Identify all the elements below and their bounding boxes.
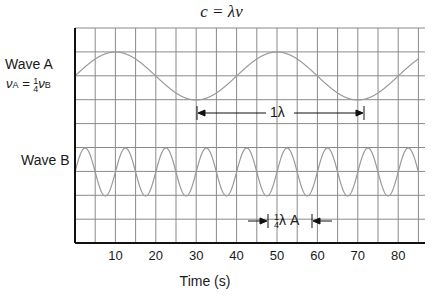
x-tick-label: 50 [262,248,292,263]
lambda-a-text: λ A [279,212,299,228]
x-tick-label: 10 [100,248,130,263]
x-tick-label: 70 [343,248,373,263]
x-axis-label: Time (s) [40,273,370,289]
x-tick-label: 60 [302,248,332,263]
one-lambda-label: 1λ [270,104,285,120]
x-tick-label: 30 [181,248,211,263]
wave-b-curve [75,148,418,196]
x-tick-label: 20 [141,248,171,263]
x-tick-label: 80 [383,248,413,263]
grid-lines [75,28,425,243]
quarter-lambda-label: 14λ A [274,212,299,229]
x-tick-label: 40 [222,248,252,263]
